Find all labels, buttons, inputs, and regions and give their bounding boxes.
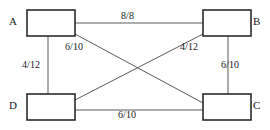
- node-label-d: D: [9, 100, 17, 111]
- node-label-b: B: [253, 16, 260, 27]
- node-box-d: [27, 94, 75, 120]
- edge-label-a-c: 6/10: [65, 42, 83, 52]
- node-box-a: [27, 10, 75, 36]
- network-flow-diagram: A B C D 8/8 6/10 4/12 4/12 6/10 6/10: [0, 0, 270, 130]
- node-box-c: [203, 94, 251, 120]
- edge-label-a-b: 8/8: [121, 11, 134, 21]
- edge-label-a-d: 4/12: [22, 60, 40, 70]
- node-label-a: A: [9, 16, 17, 27]
- edge-label-d-c: 6/10: [118, 110, 136, 120]
- node-box-b: [203, 10, 251, 36]
- edge-label-d-b: 4/12: [180, 42, 198, 52]
- node-label-c: C: [253, 100, 260, 111]
- edge-label-b-c: 6/10: [221, 60, 239, 70]
